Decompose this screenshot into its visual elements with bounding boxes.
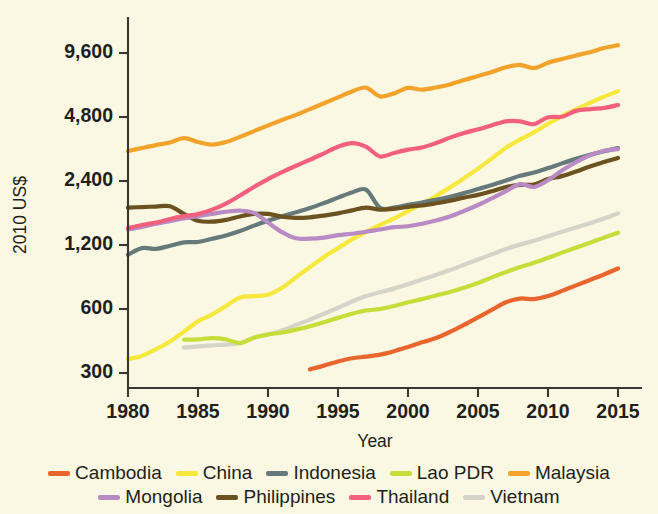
- x-tick-label: 2000: [386, 400, 430, 422]
- y-tick-label: 600: [80, 296, 113, 318]
- legend-swatch-icon: [349, 495, 371, 500]
- x-tick-label: 1990: [246, 400, 290, 422]
- legend-item-thailand[interactable]: Thailand: [349, 486, 449, 508]
- legend-row-2: MongoliaPhilippinesThailandVietnam: [98, 486, 559, 508]
- y-tick-label: 4,800: [64, 104, 113, 126]
- legend-label: Thailand: [376, 486, 449, 508]
- x-tick-label: 1980: [106, 400, 150, 422]
- legend-swatch-icon: [463, 495, 485, 500]
- legend-label: Indonesia: [293, 462, 375, 484]
- chart-canvas: 9,6004,8002,4001,200600300 1980198519901…: [0, 0, 658, 460]
- series-line-cambodia: [310, 269, 618, 370]
- series-line-mongolia: [128, 149, 618, 239]
- legend-swatch-icon: [98, 495, 120, 500]
- legend-label: Lao PDR: [417, 462, 494, 484]
- legend-item-china[interactable]: China: [176, 462, 253, 484]
- x-tick-label: 2015: [596, 400, 640, 422]
- legend-item-philippines[interactable]: Philippines: [216, 486, 335, 508]
- legend-label: China: [203, 462, 253, 484]
- y-axis-title: 2010 US$: [10, 176, 30, 254]
- legend-swatch-icon: [390, 471, 412, 476]
- axis-lines: [128, 18, 641, 388]
- legend-swatch-icon: [176, 471, 198, 476]
- x-tick-label: 2005: [456, 400, 500, 422]
- series-layer: [128, 45, 618, 369]
- legend-label: Vietnam: [490, 486, 559, 508]
- y-tick-label: 1,200: [64, 232, 113, 254]
- series-line-vietnam: [184, 213, 618, 347]
- legend-item-indonesia[interactable]: Indonesia: [266, 462, 375, 484]
- legend-swatch-icon: [508, 471, 530, 476]
- y-tick-label: 300: [80, 360, 113, 382]
- legend-item-vietnam[interactable]: Vietnam: [463, 486, 559, 508]
- legend-swatch-icon: [266, 471, 288, 476]
- y-tick-label: 2,400: [64, 168, 113, 190]
- legend-swatch-icon: [48, 471, 70, 476]
- legend-label: Mongolia: [125, 486, 202, 508]
- x-axis-title: Year: [357, 431, 393, 451]
- x-tick-label: 1995: [316, 400, 360, 422]
- chart-legend: CambodiaChinaIndonesiaLao PDRMalaysia Mo…: [0, 462, 658, 508]
- x-tick-label: 1985: [176, 400, 220, 422]
- legend-label: Malaysia: [535, 462, 610, 484]
- series-line-china: [128, 91, 618, 359]
- legend-item-mongolia[interactable]: Mongolia: [98, 486, 202, 508]
- legend-swatch-icon: [216, 495, 238, 500]
- x-tick-label: 2010: [526, 400, 570, 422]
- x-axis-tick-labels: 19801985199019952000200520102015: [106, 400, 640, 422]
- legend-label: Philippines: [243, 486, 335, 508]
- legend-item-malaysia[interactable]: Malaysia: [508, 462, 610, 484]
- legend-item-cambodia[interactable]: Cambodia: [48, 462, 162, 484]
- y-tick-label: 9,600: [64, 40, 113, 62]
- y-axis-tick-labels: 9,6004,8002,4001,200600300: [64, 40, 113, 382]
- series-line-malaysia: [128, 45, 618, 151]
- legend-item-lao-pdr[interactable]: Lao PDR: [390, 462, 494, 484]
- legend-row-1: CambodiaChinaIndonesiaLao PDRMalaysia: [48, 462, 610, 484]
- line-chart: 9,6004,8002,4001,200600300 1980198519901…: [0, 0, 658, 514]
- legend-label: Cambodia: [75, 462, 162, 484]
